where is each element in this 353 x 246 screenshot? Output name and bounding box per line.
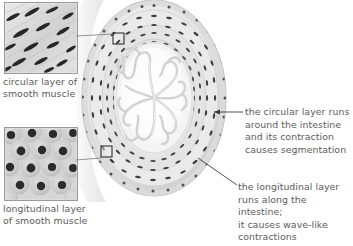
inset-circular-caption: circular layer of smooth muscle [3, 76, 118, 101]
annotation-longitudinal-layer: the longitudinal layer runs along the in… [238, 181, 353, 244]
annotation-circular-layer: the circular layer runs around the intes… [245, 106, 353, 156]
intestine-cross-section-figure [76, 0, 232, 206]
longitudinal-marker-box [101, 146, 112, 157]
inset-longitudinal-caption: longitudinal layer of smooth muscle [3, 203, 123, 228]
illustration-canvas: circular layer of smooth muscle [0, 0, 353, 246]
inset-circular-layer [4, 2, 78, 74]
inset-longitudinal-layer [4, 127, 78, 201]
